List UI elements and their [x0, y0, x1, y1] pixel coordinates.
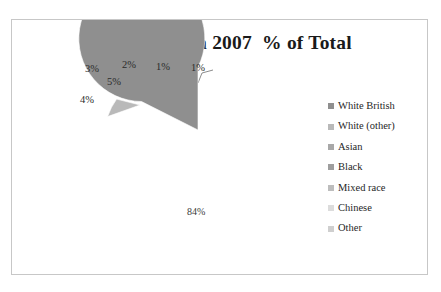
legend-label: Mixed race [338, 183, 386, 194]
data-label-84pct: 84% [187, 207, 205, 217]
legend-item-white-british[interactable]: White British [328, 96, 429, 116]
legend-label: White (other) [338, 121, 395, 132]
data-label-2pct: 2% [122, 60, 136, 71]
legend-item-other[interactable]: Other [328, 218, 429, 238]
screenshot-page: Ethnic Origin 2007 % of Total [0, 0, 441, 292]
data-label-3pct: 3% [85, 64, 99, 75]
legend-item-mixed-race[interactable]: Mixed race [328, 178, 429, 198]
legend-swatch-icon [328, 144, 334, 150]
pie-chart-svg [12, 20, 322, 276]
legend-swatch-icon [328, 185, 334, 191]
chart-legend: White British White (other) Asian Black … [328, 96, 429, 239]
data-label-5pct: 5% [107, 77, 121, 88]
pie-slice-white-british [79, 20, 205, 130]
legend-label: Other [338, 223, 362, 234]
data-label-1pct-b: 1% [191, 63, 205, 74]
legend-label: Asian [338, 142, 363, 153]
legend-swatch-icon [328, 124, 334, 130]
legend-label: Chinese [338, 203, 372, 214]
legend-label: White British [338, 101, 395, 112]
legend-item-chinese[interactable]: Chinese [328, 198, 429, 218]
legend-item-white-other[interactable]: White (other) [328, 116, 429, 136]
pie-plot-area: 3% 2% 1% 1% 5% 4% 84% [12, 20, 322, 276]
data-label-1pct-a: 1% [156, 62, 170, 73]
legend-swatch-icon [328, 205, 334, 211]
legend-swatch-icon [328, 103, 334, 109]
legend-item-black[interactable]: Black [328, 157, 429, 177]
chart-frame: Ethnic Origin 2007 % of Total [11, 19, 428, 275]
data-label-4pct: 4% [80, 95, 94, 106]
legend-label: Black [338, 162, 363, 173]
legend-item-asian[interactable]: Asian [328, 137, 429, 157]
legend-swatch-icon [328, 226, 334, 232]
pie-slice-white-other [108, 99, 140, 117]
legend-swatch-icon [328, 164, 334, 170]
